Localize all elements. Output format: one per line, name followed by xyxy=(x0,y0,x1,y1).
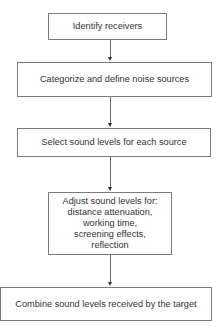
step-select-sound-levels: Select sound levels for each source xyxy=(17,128,211,157)
step-label: Categorize and define noise sources xyxy=(40,74,189,85)
step-adjust-sound-levels: Adjust sound levels for: distance attenu… xyxy=(48,192,172,255)
connector-line xyxy=(110,97,111,124)
step-combine-sound-levels: Combine sound levels received by the tar… xyxy=(0,287,212,321)
arrow-down-icon xyxy=(108,57,112,61)
connector-line xyxy=(110,255,111,283)
step-label-line: Adjust sound levels for: xyxy=(63,196,158,207)
step-label-line: working time, xyxy=(63,218,158,229)
arrow-down-icon xyxy=(108,187,112,191)
connector-line xyxy=(110,40,111,58)
step-label-line: distance attenuation, xyxy=(63,207,158,218)
step-label: Identify receivers xyxy=(73,21,142,32)
arrow-down-icon xyxy=(108,282,112,286)
step-categorize-noise-sources: Categorize and define noise sources xyxy=(17,62,212,97)
arrow-down-icon xyxy=(108,123,112,127)
step-label-line: screening effects, xyxy=(63,229,158,240)
step-identify-receivers: Identify receivers xyxy=(48,13,167,40)
step-label: Combine sound levels received by the tar… xyxy=(15,299,196,310)
step-label: Select sound levels for each source xyxy=(41,137,186,148)
step-label-line: reflection xyxy=(63,240,158,251)
connector-line xyxy=(110,157,111,188)
